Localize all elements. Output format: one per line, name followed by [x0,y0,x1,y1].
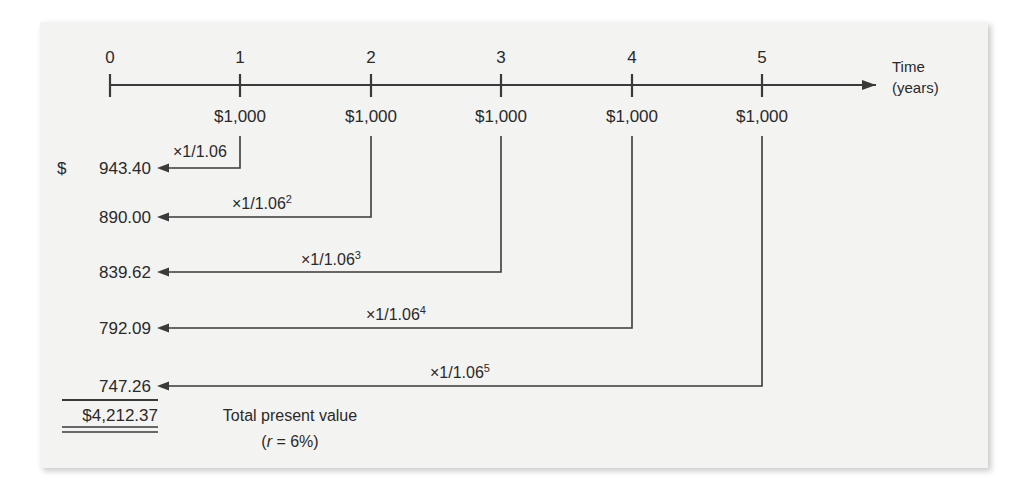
cash-flow-label-2: $1,000 [345,107,397,126]
cash-flow-label-3: $1,000 [475,107,527,126]
total-present-value-caption: Total present value [223,407,357,424]
discount-arrowhead-5 [157,382,169,391]
discount-path-4 [164,136,632,328]
discount-arrowhead-3 [157,268,169,277]
rate-equals-value: = 6% [272,433,313,450]
present-value-currency-symbol: $ [57,159,67,178]
present-value-column: $ 943.40 890.00 839.62 792.09 747.26 [57,159,151,396]
discount-factor-5-exponent: 5 [484,362,490,374]
discount-factor-2-base: ×1/1.06 [232,195,286,212]
cash-flow-labels: $1,000 $1,000 $1,000 $1,000 $1,000 [214,107,788,126]
discount-arrowhead-4 [157,324,169,333]
tick-label-4: 4 [627,48,636,67]
tick-label-2: 2 [366,48,375,67]
discount-factor-5-base: ×1/1.06 [430,364,484,381]
discount-factor-3: ×1/1.063 [301,249,361,268]
tick-label-3: 3 [496,48,505,67]
discount-factor-3-exponent: 3 [355,249,361,261]
discount-factor-4-base: ×1/1.06 [366,306,420,323]
discount-factor-3-base: ×1/1.06 [301,251,355,268]
discount-factor-1: ×1/1.06 [173,143,227,160]
present-value-1: 943.40 [99,159,151,178]
present-value-2: 890.00 [99,208,151,227]
present-value-5: 747.26 [99,377,151,396]
discount-factor-4-exponent: 4 [420,304,426,316]
total-present-value-amount: $4,212.37 [82,406,158,425]
discount-factor-labels: ×1/1.06 ×1/1.062 ×1/1.063 ×1/1.064 ×1/1.… [173,143,490,381]
total-present-value-rate: (r = 6%) [261,433,318,450]
discount-factor-5: ×1/1.065 [430,362,490,381]
discount-arrow-4 [157,136,632,333]
axis-arrowhead [862,80,876,90]
tick-label-5: 5 [757,48,766,67]
tick-label-0: 0 [105,48,114,67]
discount-arrow-5 [157,136,762,391]
discount-arrowhead-1 [157,164,169,173]
discount-factor-1-base: ×1/1.06 [173,143,227,160]
present-value-timeline-diagram: 0 1 2 3 4 5 Time (years) $1,000 $1,000 $… [0,0,1028,494]
present-value-4: 792.09 [99,319,151,338]
present-value-3: 839.62 [99,263,151,282]
discount-arrowhead-2 [157,213,169,222]
timeline-axis: 0 1 2 3 4 5 Time (years) [105,48,938,97]
discount-factor-4: ×1/1.064 [366,304,426,323]
axis-title-time: Time [892,58,925,75]
cash-flow-label-5: $1,000 [736,107,788,126]
cash-flow-label-1: $1,000 [214,107,266,126]
axis-title-years: (years) [892,79,939,96]
rate-close-paren: ) [313,433,318,450]
tick-label-1: 1 [235,48,244,67]
discount-path-5 [164,136,762,386]
discount-factor-2-exponent: 2 [286,193,292,205]
cash-flow-label-4: $1,000 [606,107,658,126]
total-present-value-block: $4,212.37 Total present value (r = 6%) [62,400,357,450]
discount-factor-2: ×1/1.062 [232,193,292,212]
